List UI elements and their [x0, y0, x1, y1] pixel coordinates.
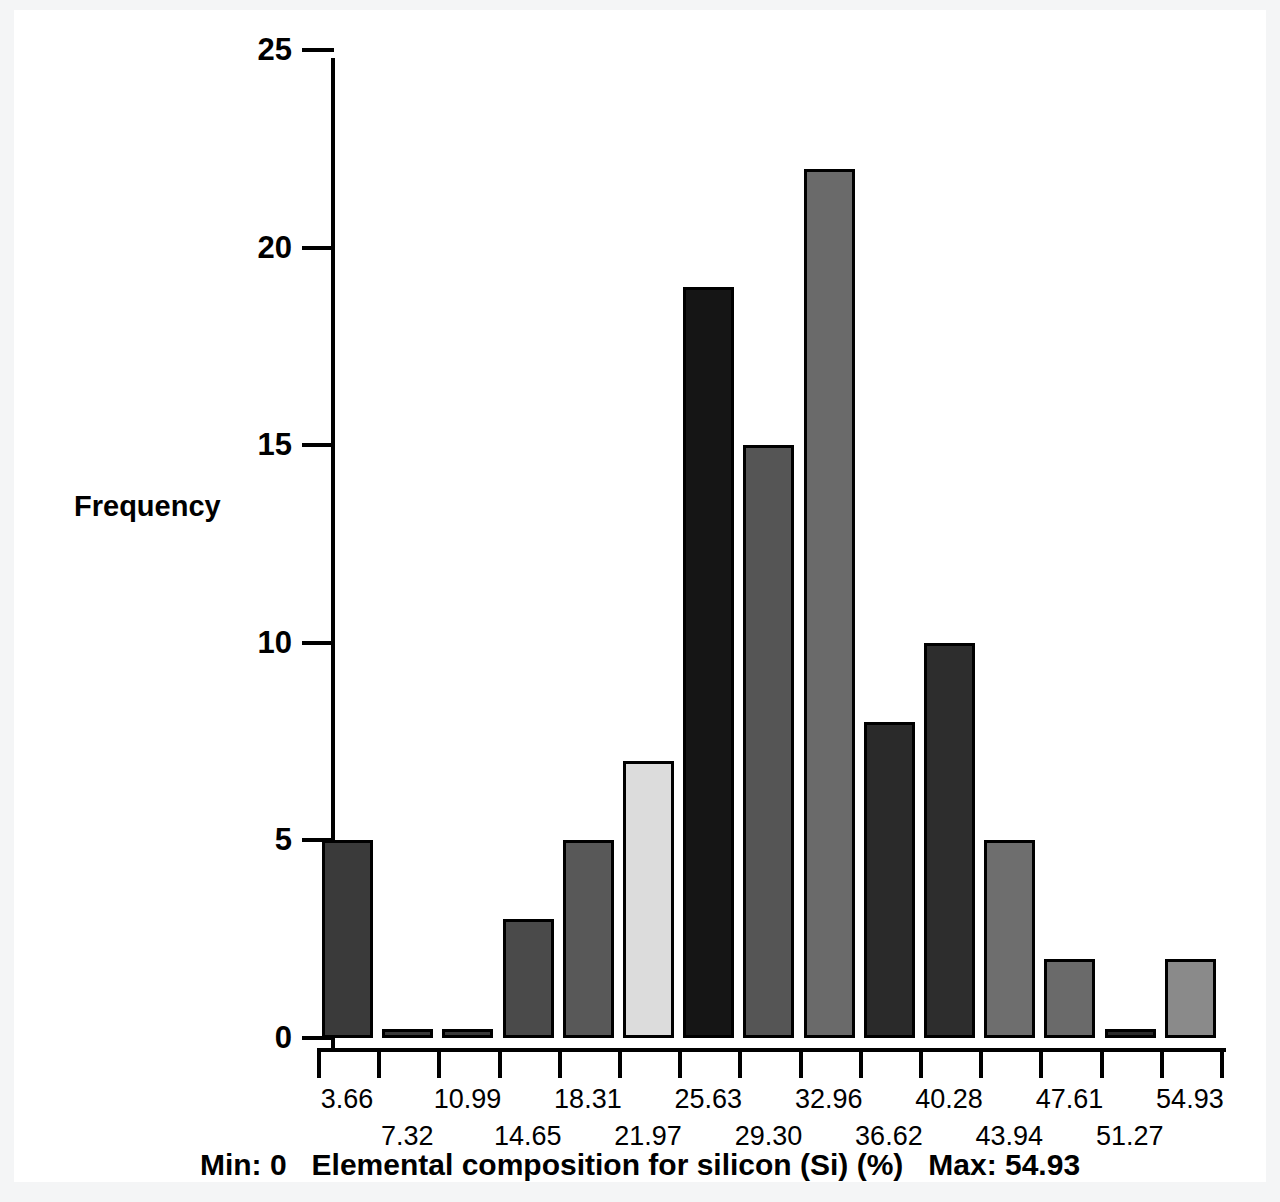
x-axis-tick	[558, 1052, 562, 1078]
x-axis-tick	[377, 1052, 381, 1078]
x-axis-tick	[498, 1052, 502, 1078]
x-axis-tick-label: 18.31	[538, 1086, 638, 1113]
x-axis-tick-label: 21.97	[598, 1123, 698, 1150]
x-axis-tick	[979, 1052, 983, 1078]
chart-caption: Min: 0 Elemental composition for silicon…	[0, 1148, 1280, 1182]
histogram-bar	[743, 445, 794, 1038]
histogram-bar	[1165, 959, 1216, 1038]
x-axis-tick	[437, 1052, 441, 1078]
x-axis-tick-label: 10.99	[418, 1086, 518, 1113]
histogram-bar	[322, 840, 373, 1038]
y-axis-tick-label: 15	[222, 429, 292, 460]
histogram-bar	[984, 840, 1035, 1038]
x-axis-tick	[919, 1052, 923, 1078]
x-axis-tick	[618, 1052, 622, 1078]
x-axis-tick	[317, 1052, 321, 1078]
x-axis-tick	[1160, 1052, 1164, 1078]
x-axis-tick-label: 29.30	[719, 1123, 819, 1150]
x-axis-tick	[1100, 1052, 1104, 1078]
x-axis-tick-label: 14.65	[478, 1123, 578, 1150]
x-axis-line	[317, 1048, 1226, 1052]
x-axis-tick	[1220, 1052, 1224, 1078]
y-axis-title: Frequency	[74, 490, 221, 523]
x-axis-tick-label: 47.61	[1020, 1086, 1120, 1113]
y-axis-tick	[302, 443, 334, 447]
histogram-bar	[683, 287, 734, 1038]
x-axis-tick	[738, 1052, 742, 1078]
x-axis-tick-label: 3.66	[297, 1086, 397, 1113]
x-axis-tick	[859, 1052, 863, 1078]
histogram-bar	[864, 722, 915, 1038]
x-axis-tick	[799, 1052, 803, 1078]
histogram-bar	[503, 919, 554, 1038]
y-axis-tick-label: 25	[222, 34, 292, 65]
histogram-bar	[382, 1029, 433, 1038]
y-axis-tick-label: 5	[222, 824, 292, 855]
y-axis-tick	[302, 48, 334, 52]
y-axis-tick-label: 0	[222, 1022, 292, 1053]
x-axis-tick-label: 7.32	[357, 1123, 457, 1150]
y-axis-tick	[302, 641, 334, 645]
x-axis-tick-label: 32.96	[779, 1086, 879, 1113]
x-axis-tick-label: 40.28	[899, 1086, 999, 1113]
y-axis-tick-label: 10	[222, 627, 292, 658]
x-axis-tick-label: 25.63	[658, 1086, 758, 1113]
histogram-figure: Frequency 0510152025 3.667.3210.9914.651…	[0, 0, 1280, 1202]
histogram-bar	[804, 169, 855, 1038]
x-axis-tick-label: 54.93	[1140, 1086, 1240, 1113]
histogram-bar	[1105, 1029, 1156, 1038]
x-axis-tick	[1039, 1052, 1043, 1078]
histogram-bar	[442, 1029, 493, 1038]
x-axis-tick-label: 36.62	[839, 1123, 939, 1150]
histogram-bar	[563, 840, 614, 1038]
x-axis-tick	[678, 1052, 682, 1078]
histogram-bar	[623, 761, 674, 1038]
x-axis-tick-label: 43.94	[959, 1123, 1059, 1150]
histogram-bar	[924, 643, 975, 1038]
histogram-bar	[1044, 959, 1095, 1038]
plot-canvas: Frequency 0510152025 3.667.3210.9914.651…	[14, 10, 1266, 1182]
y-axis-tick-label: 20	[222, 232, 292, 263]
y-axis-tick	[302, 246, 334, 250]
x-axis-tick-label: 51.27	[1080, 1123, 1180, 1150]
